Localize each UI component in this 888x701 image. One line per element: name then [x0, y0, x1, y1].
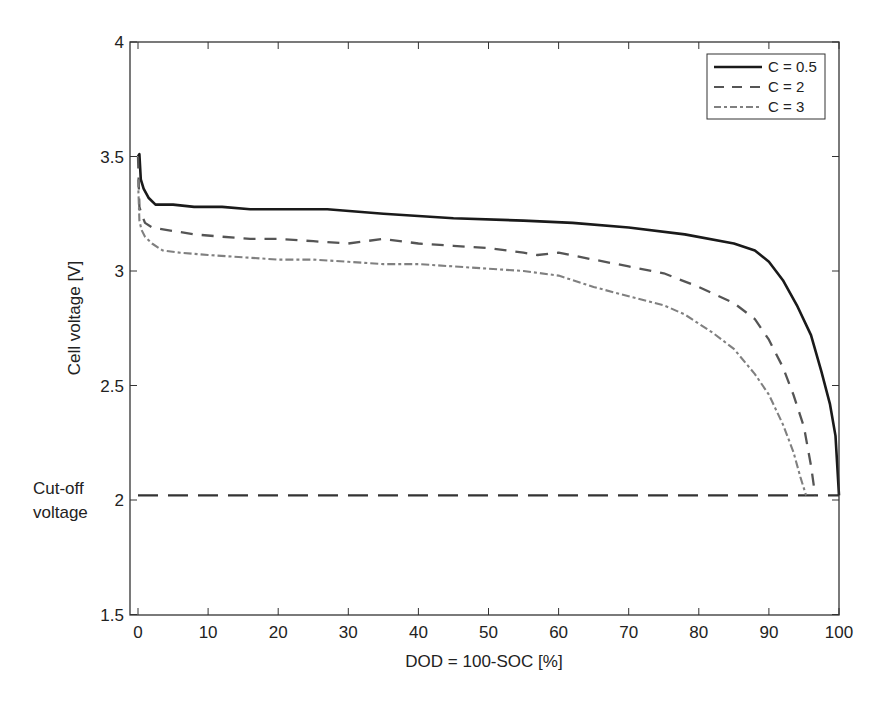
- x-tick-label: 10: [199, 623, 218, 642]
- cutoff-annotation-line2: voltage: [33, 503, 88, 522]
- discharge-curve-chart: 0102030405060708090100 1.522.533.54 DOD …: [0, 0, 888, 701]
- plot-series-group: [138, 154, 839, 495]
- y-tick-label: 3.5: [100, 148, 124, 167]
- x-tick-label: 80: [689, 623, 708, 642]
- x-tick-label: 50: [479, 623, 498, 642]
- legend-label-c2: C = 2: [768, 78, 804, 95]
- y-axis-label: Cell voltage [V]: [65, 261, 84, 375]
- x-tick-label: 60: [549, 623, 568, 642]
- x-tick-label: 100: [825, 623, 853, 642]
- y-axis-ticks: 1.522.533.54: [100, 33, 839, 625]
- x-tick-label: 90: [759, 623, 778, 642]
- x-tick-label: 40: [409, 623, 428, 642]
- x-tick-label: 0: [133, 623, 142, 642]
- x-tick-label: 30: [339, 623, 358, 642]
- y-tick-label: 3: [115, 262, 124, 281]
- y-tick-label: 2.5: [100, 377, 124, 396]
- legend-label-c05: C = 0.5: [768, 58, 817, 75]
- x-axis-label: DOD = 100-SOC [%]: [405, 652, 562, 671]
- y-tick-label: 4: [115, 33, 124, 52]
- y-tick-label: 2: [115, 491, 124, 510]
- x-axis-ticks: 0102030405060708090100: [133, 42, 853, 642]
- cutoff-annotation-line1: Cut-off: [33, 479, 84, 498]
- legend-label-c3: C = 3: [768, 98, 804, 115]
- axes-box: [130, 42, 839, 615]
- x-tick-label: 20: [269, 623, 288, 642]
- x-tick-label: 70: [619, 623, 638, 642]
- series-line-c05: [138, 154, 839, 495]
- legend: C = 0.5 C = 2 C = 3: [707, 54, 825, 119]
- y-tick-label: 1.5: [100, 606, 124, 625]
- series-line-c3: [138, 179, 806, 495]
